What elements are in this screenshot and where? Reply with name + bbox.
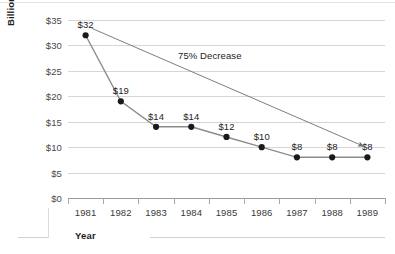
data-point-marker	[153, 124, 159, 130]
x-axis-tick-marks	[68, 198, 385, 206]
data-point-marker	[118, 98, 124, 104]
x-axis-tick-mark	[279, 198, 280, 204]
data-point-marker	[83, 32, 89, 38]
figure-left-rule	[48, 208, 49, 238]
data-point-label: $32	[78, 19, 94, 30]
x-axis-tick-label: 1981	[75, 207, 97, 218]
x-axis-tick-labels: 198119821983198419851986198719881989	[68, 207, 385, 223]
x-axis-tick-mark	[385, 198, 386, 204]
x-axis-title: Year	[75, 230, 96, 241]
data-point-label: $12	[218, 121, 234, 132]
x-axis-tick-mark	[174, 198, 175, 204]
x-axis-tick-mark	[68, 198, 69, 204]
y-axis-tick-label: $30	[0, 40, 62, 51]
x-axis-tick-label: 1983	[145, 207, 167, 218]
data-point-marker	[188, 124, 194, 130]
x-axis-tick-mark	[315, 198, 316, 204]
data-point-label: $8	[292, 141, 303, 152]
data-point-marker	[329, 154, 335, 160]
chart-container: Billions Spent on Housing Assistance $32…	[0, 0, 395, 254]
x-axis-tick-label: 1985	[216, 207, 238, 218]
x-axis-tick-mark	[244, 198, 245, 204]
plot-area: $32$19$14$14$12$10$8$8$8	[68, 20, 385, 198]
x-axis-tick-mark	[209, 198, 210, 204]
x-axis-tick-label: 1989	[357, 207, 379, 218]
y-axis-tick-label: $5	[0, 167, 62, 178]
data-point-marker	[294, 154, 300, 160]
y-axis-tick-label: $15	[0, 116, 62, 127]
data-point-label: $14	[183, 111, 199, 122]
annotation-label: 75% Decrease	[178, 50, 242, 61]
x-axis-tick-mark	[138, 198, 139, 204]
y-axis-tick-label: $0	[0, 193, 62, 204]
figure-top-rule	[0, 2, 395, 3]
data-point-label: $19	[113, 85, 129, 96]
x-title-left-rule	[18, 237, 48, 238]
x-axis-tick-label: 1988	[321, 207, 343, 218]
data-point-label: $8	[362, 141, 373, 152]
data-point-marker	[364, 154, 370, 160]
x-axis-tick-label: 1986	[251, 207, 273, 218]
x-axis-tick-mark	[103, 198, 104, 204]
y-axis-tick-label: $10	[0, 142, 62, 153]
data-point-label: $14	[148, 111, 164, 122]
y-axis-tick-label: $35	[0, 15, 62, 26]
x-axis-tick-label: 1987	[286, 207, 308, 218]
x-axis-tick-label: 1982	[110, 207, 132, 218]
y-axis-tick-label: $20	[0, 91, 62, 102]
data-point-marker	[259, 144, 265, 150]
x-axis-tick-mark	[350, 198, 351, 204]
data-point-label: $8	[327, 141, 338, 152]
series-line	[68, 20, 385, 198]
x-title-right-rule	[150, 237, 385, 238]
data-point-marker	[223, 134, 229, 140]
x-axis-tick-label: 1984	[180, 207, 202, 218]
y-axis-tick-label: $25	[0, 65, 62, 76]
data-point-label: $10	[254, 131, 270, 142]
